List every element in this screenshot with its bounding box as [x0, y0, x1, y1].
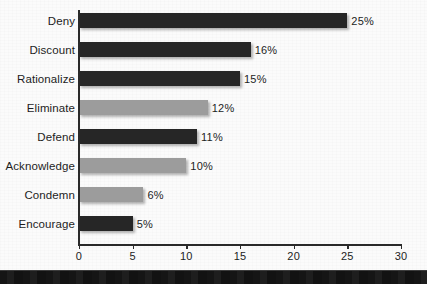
bar-value-label: 12% [212, 103, 235, 114]
bar-row: Encourage5% [0, 216, 427, 231]
x-tick-label: 10 [180, 251, 193, 262]
bar-row: Discount16% [0, 42, 427, 57]
category-label: Condemn [24, 190, 75, 202]
bar [79, 187, 143, 202]
bar-fill [79, 42, 251, 57]
x-tick-label: 20 [287, 251, 300, 262]
x-tick-label: 5 [129, 251, 135, 262]
page-bottom-band [0, 271, 427, 284]
category-label: Deny [48, 16, 75, 28]
bar-value-label: 10% [190, 161, 213, 172]
category-label: Encourage [18, 219, 75, 231]
bar-value-label: 5% [137, 219, 153, 230]
bar-value-label: 11% [201, 132, 223, 143]
bar-fill [79, 13, 347, 28]
category-label: Rationalize [17, 74, 75, 86]
bar-fill [79, 187, 143, 202]
bar [79, 100, 208, 115]
category-label: Discount [29, 45, 75, 57]
bar-row: Eliminate12% [0, 100, 427, 115]
bar-value-label: 15% [244, 74, 267, 85]
x-tick-mark [240, 244, 241, 249]
bar [79, 42, 251, 57]
x-tick-mark [347, 244, 348, 249]
bar-value-label: 16% [255, 45, 278, 56]
bar-row: Acknowledge10% [0, 158, 427, 173]
category-label: Defend [37, 132, 75, 144]
bar [79, 129, 197, 144]
bar-fill [79, 216, 133, 231]
y-axis-line [78, 10, 80, 245]
x-tick-mark [401, 244, 402, 249]
bar-fill [79, 158, 186, 173]
bar [79, 158, 186, 173]
x-tick-label: 0 [76, 251, 82, 262]
bar-value-label: 25% [351, 16, 374, 27]
scanned-page: Deny25%Discount16%Rationalize15%Eliminat… [0, 0, 427, 284]
x-tick-mark [79, 244, 80, 249]
bar [79, 216, 133, 231]
bar-row: Deny25% [0, 13, 427, 28]
bar [79, 71, 240, 86]
category-label: Eliminate [27, 103, 75, 115]
bar-value-label: 6% [147, 190, 163, 201]
bar-fill [79, 129, 197, 144]
x-tick-label: 25 [341, 251, 354, 262]
bar [79, 13, 347, 28]
bar-fill [79, 100, 208, 115]
x-tick-label: 15 [234, 251, 247, 262]
x-tick-mark [186, 244, 187, 249]
category-label: Acknowledge [5, 161, 75, 173]
x-tick-mark [294, 244, 295, 249]
bar-row: Defend11% [0, 129, 427, 144]
bar-fill [79, 71, 240, 86]
bar-row: Condemn6% [0, 187, 427, 202]
horizontal-bar-chart: Deny25%Discount16%Rationalize15%Eliminat… [0, 0, 427, 270]
bar-row: Rationalize15% [0, 71, 427, 86]
x-tick-mark [133, 244, 134, 249]
x-tick-label: 30 [395, 251, 408, 262]
